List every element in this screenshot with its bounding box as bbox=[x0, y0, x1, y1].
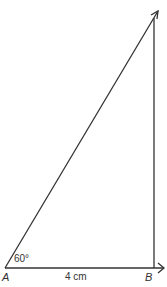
point-label-b: B bbox=[145, 272, 152, 283]
diagram-canvas bbox=[0, 0, 167, 287]
ray-60-degree-line bbox=[5, 11, 158, 268]
point-label-a: A bbox=[2, 272, 9, 283]
angle-label-a: 60° bbox=[14, 254, 29, 264]
triangle-construction-diagram: 60° A 4 cm B bbox=[0, 0, 167, 287]
base-length-label: 4 cm bbox=[65, 272, 87, 282]
